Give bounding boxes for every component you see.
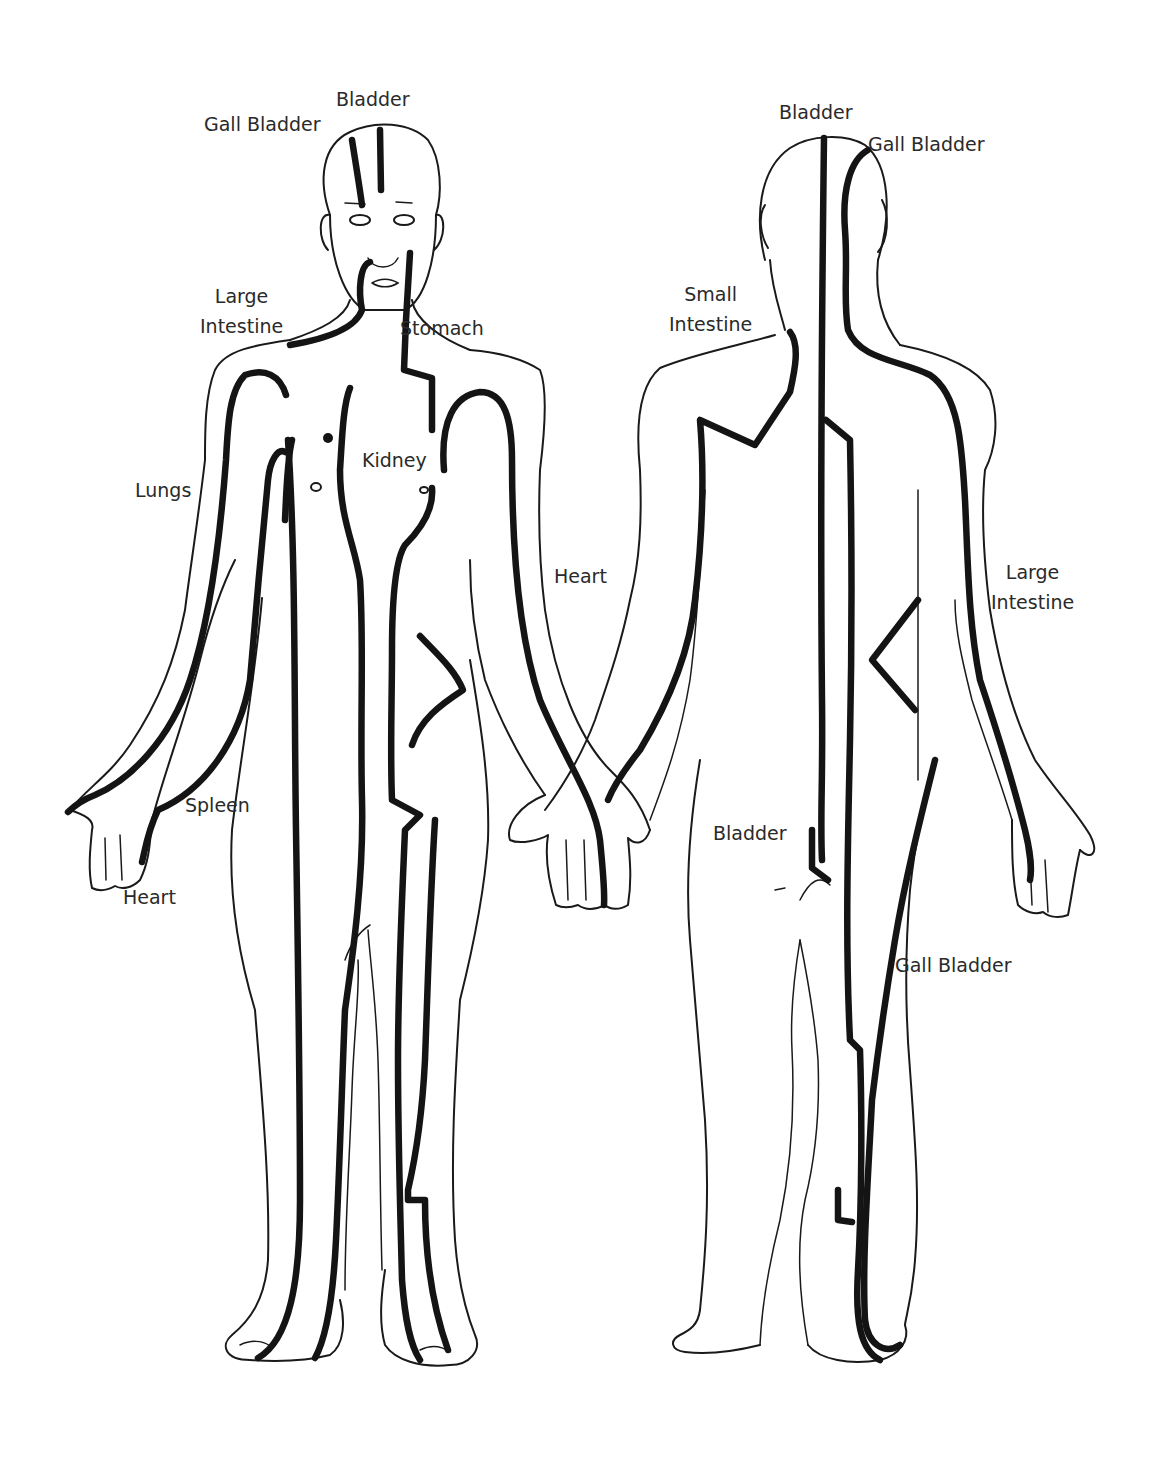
front-label-spleen: Spleen [185,790,250,820]
back-label-large-intestine: Large Intestine [991,557,1074,617]
front-label-stomach: Stomach [400,313,484,343]
front-label-gall-bladder: Gall Bladder [204,109,321,139]
back-label-gall-bladder: Gall Bladder [868,129,985,159]
front-meridian-lines [68,130,604,1360]
front-label-heart-hand: Heart [123,882,176,912]
body-figures [0,0,1158,1459]
front-label-lungs: Lungs [135,475,191,505]
front-label-bladder: Bladder [336,84,410,114]
meridian-diagram: Bladder Gall Bladder Large Intestine Sto… [0,0,1158,1459]
back-label-bladder: Bladder [779,97,853,127]
back-label-gall-bladder-leg: Gall Bladder [895,950,1012,980]
back-label-bladder-leg: Bladder [713,818,787,848]
back-label-small-intestine: Small Intestine [669,279,752,339]
front-label-kidney: Kidney [362,445,427,475]
front-label-large-intestine: Large Intestine [200,281,283,341]
front-label-heart-arm: Heart [554,561,607,591]
